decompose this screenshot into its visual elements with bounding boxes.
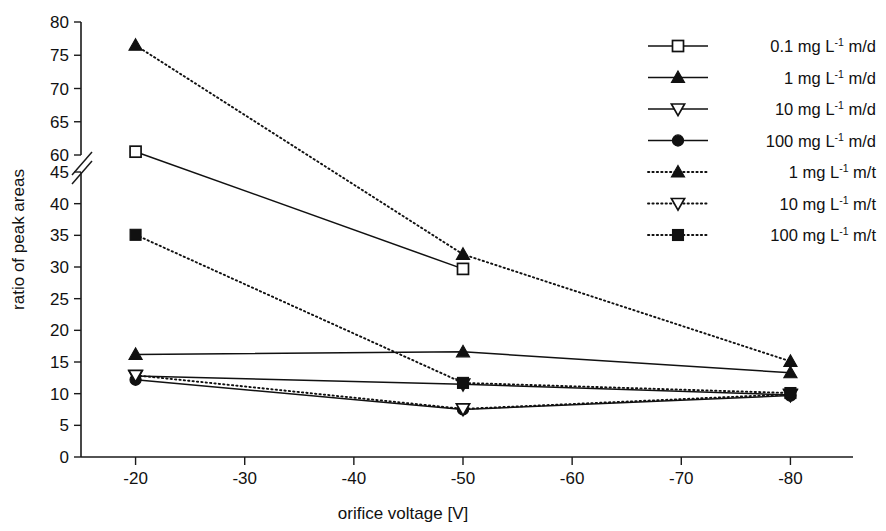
legend-item-0[interactable]: 0.1 mg L-1 m/d (648, 36, 876, 55)
legend-label-4: 1 mg L-1 m/t (789, 162, 877, 181)
y-tick-label: 65 (50, 113, 69, 132)
y-tick-label: 0 (60, 448, 69, 467)
legend-marker-6 (673, 230, 684, 241)
x-tick-label: -30 (232, 469, 257, 488)
y-tick-label: 70 (50, 80, 69, 99)
legend-marker-4 (671, 165, 684, 177)
legend-item-4[interactable]: 1 mg L-1 m/t (648, 162, 876, 181)
legend-item-5[interactable]: 10 mg L-1 m/t (648, 194, 876, 213)
data-point-s4-p1 (456, 248, 469, 260)
legend-label-5: 10 mg L-1 m/t (780, 194, 877, 213)
legend-label-6: 100 mg L-1 m/t (770, 225, 876, 244)
data-point-s1-p1 (456, 345, 469, 357)
y-tick-label: 45 (50, 163, 69, 182)
legend-item-3[interactable]: 100 mg L-1 m/d (648, 131, 876, 150)
y-tick-label: 60 (50, 146, 69, 165)
data-point-s0-p0 (130, 146, 141, 157)
legend-label-3: 100 mg L-1 m/d (766, 131, 876, 150)
y-tick-label: 80 (50, 13, 69, 32)
data-point-s1-p0 (129, 348, 142, 360)
y-axis-title: ratio of peak areas (9, 169, 28, 310)
x-tick-label: -20 (123, 469, 148, 488)
y-tick-label: 20 (50, 321, 69, 340)
data-point-s6-p1 (458, 377, 469, 388)
data-point-s6-p2 (785, 388, 796, 399)
chart-canvas: 0510152025303540456065707580-20-30-40-50… (0, 0, 886, 531)
x-axis-title: orifice voltage [V] (338, 504, 468, 523)
y-tick-label: 5 (60, 416, 69, 435)
x-tick-label: -80 (778, 469, 803, 488)
legend-label-1: 1 mg L-1 m/d (784, 68, 876, 87)
legend-label-0: 0.1 mg L-1 m/d (770, 36, 876, 55)
legend-item-1[interactable]: 1 mg L-1 m/d (648, 68, 876, 87)
data-point-s4-p2 (784, 355, 797, 367)
data-point-s4-p0 (129, 39, 142, 51)
y-tick-label: 25 (50, 290, 69, 309)
legend-marker-1 (671, 71, 684, 83)
x-tick-label: -50 (451, 469, 476, 488)
y-tick-label: 10 (50, 385, 69, 404)
x-tick-label: -40 (342, 469, 367, 488)
y-tick-label: 40 (50, 195, 69, 214)
legend-marker-2 (671, 104, 684, 116)
legend-marker-3 (672, 135, 683, 146)
y-tick-label: 15 (50, 353, 69, 372)
legend-marker-5 (671, 199, 684, 211)
data-point-s0-p1 (458, 263, 469, 274)
legend-item-2[interactable]: 10 mg L-1 m/d (648, 99, 876, 118)
data-point-s6-p0 (130, 229, 141, 240)
x-tick-label: -70 (669, 469, 694, 488)
legend-item-6[interactable]: 100 mg L-1 m/t (648, 225, 876, 244)
legend-marker-0 (673, 41, 684, 52)
y-tick-label: 35 (50, 226, 69, 245)
chart-figure: 0510152025303540456065707580-20-30-40-50… (0, 0, 886, 531)
y-tick-label: 30 (50, 258, 69, 277)
y-tick-label: 75 (50, 46, 69, 65)
x-tick-label: -60 (560, 469, 585, 488)
legend-label-2: 10 mg L-1 m/d (775, 99, 876, 118)
series-line-0 (136, 152, 463, 269)
